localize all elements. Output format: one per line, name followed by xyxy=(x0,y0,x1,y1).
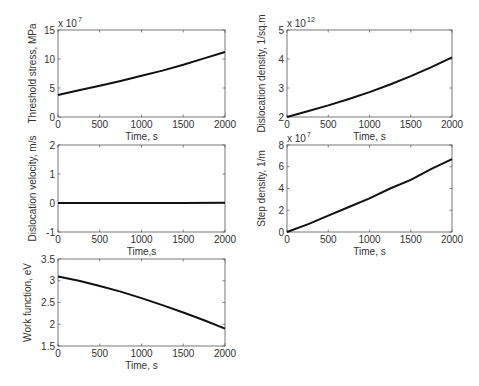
x-tick-label: 500 xyxy=(91,234,108,245)
y-exponent-label: x 10 xyxy=(287,18,306,29)
x-tick-label: 1500 xyxy=(400,234,423,245)
y-tick-label: 4 xyxy=(278,54,284,65)
y-axis-label: Work function, eV xyxy=(22,263,33,342)
x-tick-label: 500 xyxy=(91,119,108,130)
y-tick-label: 1 xyxy=(49,169,55,180)
x-axis-label: Time, s xyxy=(125,360,157,371)
subplot-bottom-left: 05001000150020001.522.533.5Time, sWork f… xyxy=(22,254,237,372)
x-tick-label: 2000 xyxy=(441,119,464,130)
axes-box xyxy=(58,30,225,117)
x-tick-label: 1500 xyxy=(172,348,195,359)
x-tick-label: 1000 xyxy=(130,119,153,130)
y-tick-label: 5 xyxy=(49,83,55,94)
x-tick-label: 0 xyxy=(55,119,61,130)
y-tick-label: 0 xyxy=(278,227,284,238)
axes-box xyxy=(287,145,452,232)
y-tick-label: 0 xyxy=(49,198,55,209)
x-tick-label: 0 xyxy=(284,234,290,245)
y-tick-label: 6 xyxy=(278,161,284,172)
y-tick-label: 8 xyxy=(278,140,284,151)
x-tick-label: 500 xyxy=(320,234,337,245)
y-tick-label: 0 xyxy=(49,112,55,123)
y-exponent-power: 7 xyxy=(78,16,82,23)
x-tick-label: 1000 xyxy=(358,234,381,245)
x-axis-label: Time, s xyxy=(125,131,157,142)
y-tick-label: 2 xyxy=(278,205,284,216)
y-axis-label: Step density, 1/m xyxy=(256,150,267,227)
x-axis-label: Time,s xyxy=(127,246,157,257)
axes-box xyxy=(58,259,225,346)
y-tick-label: 5 xyxy=(278,25,284,36)
y-tick-label: 2 xyxy=(49,140,55,151)
x-tick-label: 0 xyxy=(55,348,61,359)
x-axis-label: Time, s xyxy=(353,131,385,142)
x-tick-label: 2000 xyxy=(214,348,237,359)
y-exponent-label: x 10 xyxy=(287,133,306,144)
y-axis-label: Dislocation density, 1/sq.m xyxy=(256,14,267,132)
y-tick-label: 3.5 xyxy=(41,254,55,265)
x-axis-label: Time, s xyxy=(353,246,385,257)
axes-box xyxy=(287,30,452,117)
x-tick-label: 1500 xyxy=(400,119,423,130)
y-tick-label: 3 xyxy=(49,275,55,286)
y-exponent-power: 7 xyxy=(307,131,311,138)
y-tick-label: 10 xyxy=(44,54,56,65)
x-tick-label: 1000 xyxy=(130,348,153,359)
x-tick-label: 500 xyxy=(320,119,337,130)
y-exponent-power: 12 xyxy=(307,16,315,23)
y-tick-label: 3 xyxy=(278,83,284,94)
y-axis-label: Threshold stress, MPa xyxy=(27,23,38,123)
y-tick-label: 15 xyxy=(44,25,56,36)
x-tick-label: 1000 xyxy=(358,119,381,130)
y-tick-label: 1.5 xyxy=(41,341,55,352)
x-tick-label: 1500 xyxy=(172,234,195,245)
subplot-middle-right: 050010001500200002468x 107Time, sStep de… xyxy=(256,131,464,257)
y-tick-label: 2.5 xyxy=(41,297,55,308)
x-tick-label: 2000 xyxy=(441,234,464,245)
subplot-middle-left: 0500100015002000-1012Time,sDislocation v… xyxy=(27,136,237,257)
y-tick-label: -1 xyxy=(46,227,55,238)
y-exponent-label: x 10 xyxy=(58,18,77,29)
x-tick-label: 500 xyxy=(91,348,108,359)
y-tick-label: 2 xyxy=(49,319,55,330)
x-tick-label: 2000 xyxy=(214,119,237,130)
x-tick-label: 1000 xyxy=(130,234,153,245)
x-tick-label: 2000 xyxy=(214,234,237,245)
subplot-top-right: 05001000150020002345x 1012Time, sDisloca… xyxy=(256,14,464,142)
figure: 0500100015002000051015x 107Time, sThresh… xyxy=(0,0,479,386)
x-tick-label: 0 xyxy=(284,119,290,130)
y-tick-label: 2 xyxy=(278,112,284,123)
x-tick-label: 1500 xyxy=(172,119,195,130)
subplot-top-left: 0500100015002000051015x 107Time, sThresh… xyxy=(27,16,237,142)
y-axis-label: Dislocation velocity, m/s xyxy=(27,136,38,242)
x-tick-label: 0 xyxy=(55,234,61,245)
y-tick-label: 4 xyxy=(278,183,284,194)
axes-box xyxy=(58,145,225,232)
